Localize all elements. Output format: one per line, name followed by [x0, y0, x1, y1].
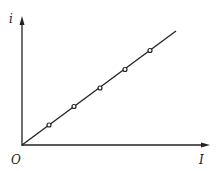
- x-axis-arrow-icon: [201, 143, 210, 148]
- data-point: [148, 49, 152, 53]
- data-point: [123, 68, 127, 72]
- data-point: [72, 105, 76, 109]
- y-axis-label: i: [9, 12, 13, 26]
- i-vs-I-diagram: i O I: [0, 0, 220, 171]
- origin-label: O: [11, 153, 21, 167]
- x-axis-label: I: [198, 153, 204, 167]
- data-point: [98, 86, 102, 90]
- data-point: [47, 123, 51, 127]
- y-axis-arrow-icon: [20, 16, 25, 25]
